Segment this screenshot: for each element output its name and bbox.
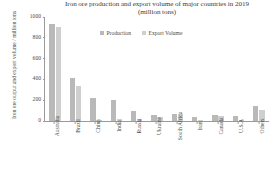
x-axis-tick-label: Australia xyxy=(54,116,60,137)
x-axis-tick-label: U.S.A xyxy=(238,119,244,133)
bar-group xyxy=(126,17,146,121)
bar-group xyxy=(65,17,85,121)
x-axis-label-cell: Australia xyxy=(44,124,64,190)
chart-title-line-2: (million tons) xyxy=(44,9,270,17)
x-axis-tick-label: Russia xyxy=(136,119,142,134)
bar-group xyxy=(228,17,248,121)
bar-group xyxy=(167,17,187,121)
x-axis-label-cell: Canada xyxy=(208,124,228,190)
bar-groups xyxy=(45,17,269,121)
x-axis-tick-label: India xyxy=(116,120,122,132)
x-axis-label-cell: Brazil xyxy=(64,124,84,190)
y-axis-tick-label: 200 xyxy=(33,96,41,102)
x-axis-tick-label: Brazil xyxy=(75,119,81,133)
bar-group xyxy=(249,17,269,121)
bar xyxy=(253,106,258,121)
x-axis-labels: AustraliaBrazilChinaIndiaRussiaUkraineSo… xyxy=(44,124,269,190)
x-axis-tick-label: Canada xyxy=(218,118,224,135)
chart-figure: Iron ore production and export volume of… xyxy=(0,0,273,192)
x-axis-label-cell: Russia xyxy=(126,124,146,190)
y-axis-tick-label: 1000 xyxy=(30,13,41,19)
bar xyxy=(111,100,116,121)
x-axis-tick-label: South Africa xyxy=(177,112,183,140)
chart-title: Iron ore production and export volume of… xyxy=(44,1,270,17)
x-axis-label-cell: U.S.A xyxy=(228,124,248,190)
bar-group xyxy=(188,17,208,121)
bar-group xyxy=(86,17,106,121)
bar xyxy=(192,117,197,121)
bar xyxy=(90,98,95,121)
x-axis-label-cell: China xyxy=(85,124,105,190)
bar-group xyxy=(147,17,167,121)
y-axis-tick-label: 400 xyxy=(33,75,41,81)
y-axis-tick-label: 0 xyxy=(38,117,41,123)
bar-group xyxy=(45,17,65,121)
x-axis-tick-label: Others xyxy=(259,119,265,134)
x-axis-tick-label: Iran xyxy=(197,121,203,130)
bar xyxy=(212,115,217,121)
x-axis-label-cell: South Africa xyxy=(167,124,187,190)
bar xyxy=(56,27,61,121)
x-axis-label-cell: Others xyxy=(249,124,269,190)
x-axis-tick-label: Ukraine xyxy=(156,117,162,135)
x-axis-label-cell: Ukraine xyxy=(146,124,166,190)
bar xyxy=(76,86,81,121)
plot-area: 02004006008001000 xyxy=(44,17,269,122)
bar-group xyxy=(106,17,126,121)
y-axis-tick-label: 600 xyxy=(33,55,41,61)
x-axis-label-cell: India xyxy=(105,124,125,190)
bar xyxy=(70,78,75,121)
y-axis-title: Iron ore output and export volume / mill… xyxy=(11,0,17,135)
bar xyxy=(49,24,54,121)
x-axis-label-cell: Iran xyxy=(187,124,207,190)
y-axis-tick-label: 800 xyxy=(33,34,41,40)
bar-group xyxy=(208,17,228,121)
x-axis-tick-label: China xyxy=(95,119,101,132)
